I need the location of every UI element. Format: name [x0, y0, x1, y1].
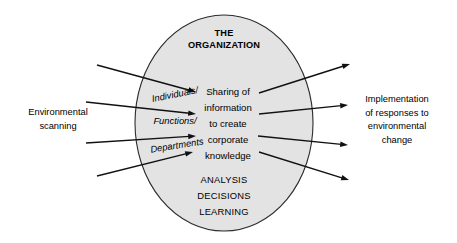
outcome-line-3: LEARNING: [199, 206, 249, 217]
organization-flow-diagram: THEORGANIZATION Sharing ofinformationto …: [0, 0, 457, 243]
implementation-response-line-3: environmental: [368, 121, 426, 131]
outcome-line-2: DECISIONS: [197, 190, 250, 201]
output-arrow-4-head-icon: [341, 175, 349, 180]
output-arrow-1-head-icon: [342, 64, 350, 69]
environmental-scanning-line-2: scanning: [39, 121, 76, 131]
channel-functions: Functions/: [153, 115, 198, 126]
channel-labels: Individuals/Functions/Departments: [149, 84, 204, 155]
core-process-line-2: information: [204, 102, 251, 113]
implementation-response-line-1: Implementation: [365, 94, 429, 104]
organization-outcomes-text: ANALYSISDECISIONSLEARNING: [197, 174, 250, 216]
outcome-line-1: ANALYSIS: [201, 174, 248, 185]
implementation-response-label: Implementationof responses toenvironment…: [365, 94, 429, 144]
core-process-line-4: corporate: [208, 134, 249, 145]
core-process-line-1: Sharing of: [206, 86, 250, 97]
diagram-canvas: THEORGANIZATION Sharing ofinformationto …: [0, 0, 457, 243]
core-process-line-5: knowledge: [205, 150, 251, 161]
implementation-response-line-4: change: [382, 135, 413, 145]
core-process-line-3: to create: [209, 118, 246, 129]
environmental-scanning-label: Environmentalscanning: [28, 107, 87, 130]
organization-title-line-1: THE: [215, 28, 234, 38]
environmental-scanning-line-1: Environmental: [28, 107, 87, 117]
organization-title-line-2: ORGANIZATION: [188, 40, 260, 50]
output-arrow-2-head-icon: [340, 103, 348, 108]
output-arrow-3-head-icon: [340, 142, 348, 147]
implementation-response-line-2: of responses to: [365, 108, 429, 118]
